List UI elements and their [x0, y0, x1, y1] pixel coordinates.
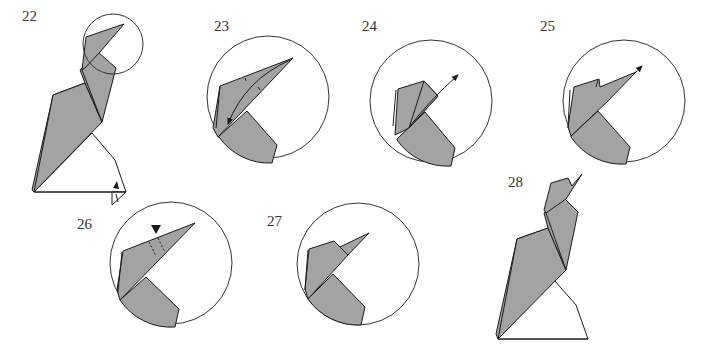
- small-fold: [112, 192, 126, 205]
- step-26-closeup: [110, 202, 232, 327]
- step-25-closeup: [563, 40, 685, 164]
- step-22-model: [32, 14, 143, 205]
- step-28-model: [496, 174, 588, 339]
- diagram-canvas: [0, 0, 716, 353]
- step-27-closeup: [297, 203, 419, 325]
- push-triangle-icon: [151, 225, 161, 234]
- step-24-closeup: [370, 40, 492, 166]
- step-23-closeup: [207, 36, 329, 163]
- fold-arrow-icon: [636, 66, 642, 72]
